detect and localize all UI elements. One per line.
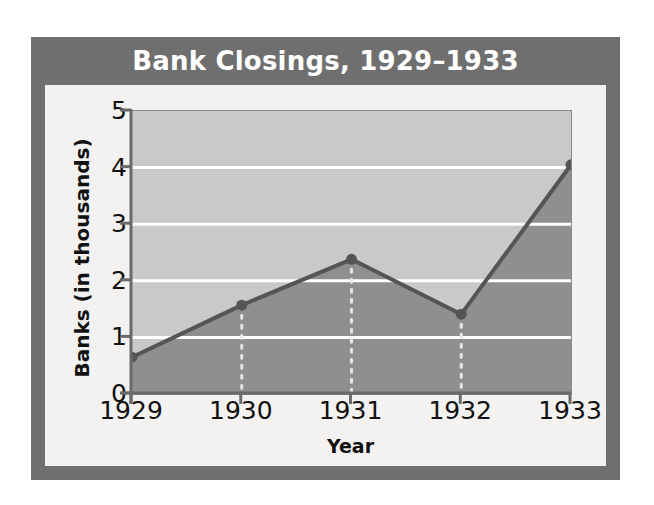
x-tick-label-1930: 1930	[196, 398, 286, 423]
x-tick-label-1932: 1932	[415, 398, 505, 423]
y-axis-label-wrapper: Banks (in thousands)	[65, 85, 99, 430]
y-tick-label-4: 4	[101, 154, 127, 179]
data-point-1931	[346, 254, 357, 265]
y-tick-label-5: 5	[101, 98, 127, 123]
chart-title: Bank Closings, 1929–1933	[132, 46, 519, 76]
data-point-1930	[236, 300, 247, 311]
chart-figure: Bank Closings, 1929–1933 Banks (in thous…	[0, 0, 654, 505]
chart-frame: Bank Closings, 1929–1933 Banks (in thous…	[31, 37, 620, 480]
plot-area	[131, 110, 572, 395]
chart-title-band: Bank Closings, 1929–1933	[31, 37, 620, 85]
y-axis-label: Banks (in thousands)	[70, 138, 94, 377]
data-point-1932	[456, 309, 467, 320]
y-tick-label-3: 3	[101, 211, 127, 236]
x-tick-label-1931: 1931	[306, 398, 396, 423]
x-tick-label-1933: 1933	[525, 398, 615, 423]
x-axis-label: Year	[131, 435, 570, 457]
plot-svg	[132, 111, 571, 394]
chart-panel: Banks (in thousands) 0 1 2 3 4 5	[45, 85, 606, 466]
y-tick-label-2: 2	[101, 267, 127, 292]
y-tick-label-1: 1	[101, 324, 127, 349]
x-tick-label-1929: 1929	[86, 398, 176, 423]
